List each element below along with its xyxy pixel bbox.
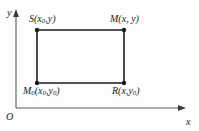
vertex-label-M0: M0(x0,y0) xyxy=(23,86,60,96)
vertex-label-S: S(x0,y) xyxy=(29,14,56,24)
x-axis-arrowhead xyxy=(178,105,186,111)
coordinate-diagram: S(x0,y) M(x, y) M0(x0,y0) R(x,y0) y x O xyxy=(0,0,199,131)
y-axis-label: y xyxy=(7,8,11,18)
vertex-label-R: R(x,y0) xyxy=(112,86,140,96)
origin-label: O xyxy=(6,112,13,122)
vertex-dot-M xyxy=(122,28,126,32)
vertex-dot-S xyxy=(35,28,39,32)
x-axis-label: x xyxy=(186,117,190,127)
y-axis-arrowhead xyxy=(13,9,19,17)
vertex-label-M: M(x, y) xyxy=(110,14,139,24)
